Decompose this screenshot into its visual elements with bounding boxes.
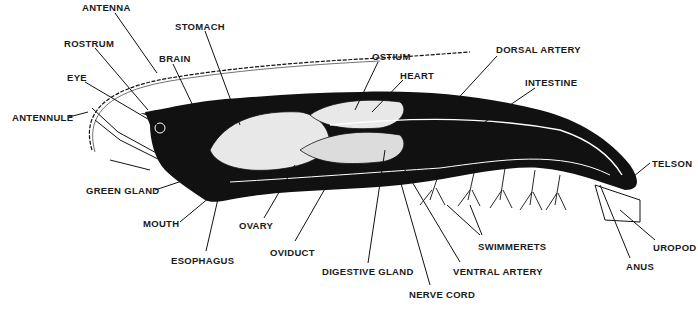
- label-esophagus: ESOPHAGUS: [171, 256, 234, 266]
- label-eye: EYE: [67, 73, 87, 83]
- label-antennule: ANTENNULE: [12, 113, 73, 123]
- label-intestine: INTESTINE: [525, 78, 577, 88]
- label-oviduct: OVIDUCT: [270, 248, 315, 258]
- label-brain: BRAIN: [159, 54, 191, 64]
- label-telson: TELSON: [652, 159, 692, 169]
- label-anus: ANUS: [626, 262, 654, 272]
- label-uropod: UROPOD: [653, 243, 697, 253]
- label-heart: HEART: [400, 71, 434, 81]
- label-ovary: OVARY: [239, 221, 273, 231]
- label-rostrum: ROSTRUM: [64, 39, 114, 49]
- label-ventral-artery: VENTRAL ARTERY: [453, 267, 543, 277]
- label-dorsal-artery: DORSAL ARTERY: [496, 45, 581, 55]
- label-swimmerets: SWIMMERETS: [478, 242, 546, 252]
- label-mouth: MOUTH: [143, 219, 179, 229]
- label-antenna: ANTENNA: [82, 3, 131, 13]
- label-ostium: OSTIUM: [372, 52, 411, 62]
- label-nerve-cord: NERVE CORD: [409, 290, 475, 300]
- label-digestive-gland: DIGESTIVE GLAND: [322, 267, 414, 277]
- label-green-gland: GREEN GLAND: [86, 186, 160, 196]
- label-stomach: STOMACH: [175, 22, 225, 32]
